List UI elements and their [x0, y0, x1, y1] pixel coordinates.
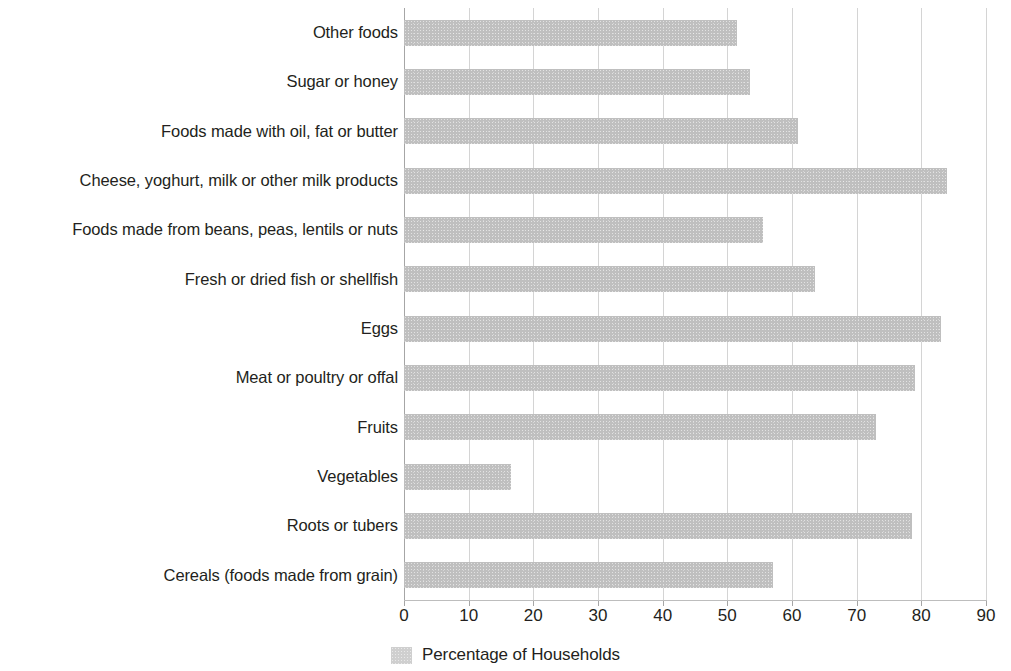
- category-label: Eggs: [6, 319, 398, 338]
- bar-row: Vegetables: [0, 452, 1011, 501]
- x-tick-label: 10: [459, 606, 478, 626]
- bar-track: [404, 57, 987, 106]
- bar-row: Fresh or dried fish or shellfish: [0, 255, 1011, 304]
- category-label: Cereals (foods made from grain): [6, 566, 398, 585]
- bar-track: [404, 551, 987, 600]
- bar: [404, 217, 763, 243]
- bar-chart: Other foodsSugar or honeyFoods made with…: [0, 0, 1011, 671]
- x-tick-label: 30: [589, 606, 608, 626]
- bar: [404, 365, 915, 391]
- bar: [404, 414, 876, 440]
- category-label: Vegetables: [6, 467, 398, 486]
- legend-swatch-icon: [391, 647, 412, 664]
- legend-label: Percentage of Households: [422, 645, 620, 665]
- bar-track: [404, 501, 987, 550]
- category-label: Fresh or dried fish or shellfish: [6, 270, 398, 289]
- category-label: Fruits: [6, 418, 398, 437]
- bar-row: Foods made with oil, fat or butter: [0, 107, 1011, 156]
- x-tick-label: 40: [653, 606, 672, 626]
- bar-track: [404, 107, 987, 156]
- bar-track: [404, 403, 987, 452]
- bar-row: Cereals (foods made from grain): [0, 551, 1011, 600]
- bar: [404, 464, 511, 490]
- x-tick-label: 80: [912, 606, 931, 626]
- bar-track: [404, 304, 987, 353]
- category-label: Sugar or honey: [6, 72, 398, 91]
- category-label: Meat or poultry or offal: [6, 368, 398, 387]
- bar-row: Cheese, yoghurt, milk or other milk prod…: [0, 156, 1011, 205]
- bar-track: [404, 156, 987, 205]
- x-tick-label: 60: [783, 606, 802, 626]
- bar: [404, 513, 912, 539]
- x-tick-label: 20: [524, 606, 543, 626]
- category-label: Cheese, yoghurt, milk or other milk prod…: [6, 171, 398, 190]
- bar-row: Meat or poultry or offal: [0, 353, 1011, 402]
- bar-row: Roots or tubers: [0, 501, 1011, 550]
- bar: [404, 69, 750, 95]
- bar-row: Sugar or honey: [0, 57, 1011, 106]
- bar-row: Fruits: [0, 403, 1011, 452]
- category-label: Other foods: [6, 23, 398, 42]
- bar-track: [404, 255, 987, 304]
- bar-track: [404, 353, 987, 402]
- bar-track: [404, 8, 987, 57]
- bar-row: Foods made from beans, peas, lentils or …: [0, 205, 1011, 254]
- x-axis-ticks: 0102030405060708090: [404, 601, 987, 627]
- category-label: Foods made with oil, fat or butter: [6, 122, 398, 141]
- bar-row: Other foods: [0, 8, 1011, 57]
- bar-row: Eggs: [0, 304, 1011, 353]
- bar-track: [404, 452, 987, 501]
- bar-rows: Other foodsSugar or honeyFoods made with…: [0, 8, 1011, 600]
- category-label: Roots or tubers: [6, 516, 398, 535]
- bar: [404, 20, 737, 46]
- bar: [404, 168, 947, 194]
- bar: [404, 562, 773, 588]
- x-tick-label: 70: [847, 606, 866, 626]
- category-label: Foods made from beans, peas, lentils or …: [6, 220, 398, 239]
- bar-track: [404, 205, 987, 254]
- bar: [404, 266, 815, 292]
- x-tick-label: 0: [399, 606, 408, 626]
- bar: [404, 316, 941, 342]
- chart-legend: Percentage of Households: [0, 645, 1011, 665]
- bar: [404, 118, 798, 144]
- x-tick-label: 90: [977, 606, 996, 626]
- x-tick-label: 50: [718, 606, 737, 626]
